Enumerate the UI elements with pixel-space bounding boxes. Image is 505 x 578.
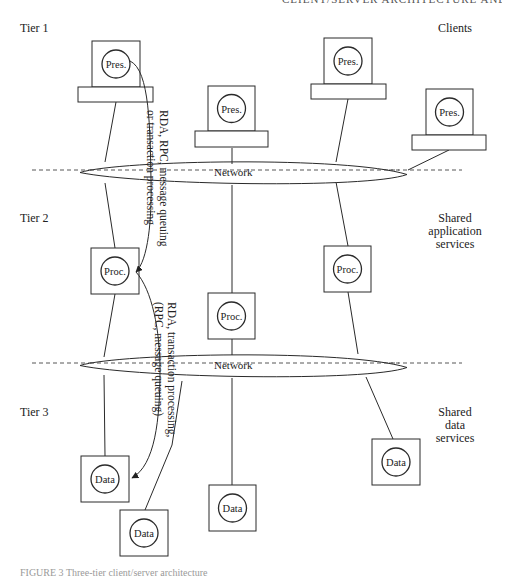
layer-role-label: Clients [415, 22, 495, 35]
app-server-node-3: Proc. [208, 293, 255, 339]
client-node-1: Pres. [78, 41, 153, 102]
flow-annotation: or transaction processing [144, 110, 157, 225]
workstation-base [78, 87, 153, 102]
connector-line [348, 292, 358, 354]
node-label: Data [134, 528, 154, 539]
connector-line [336, 182, 348, 246]
data-server-node-2: Data [120, 510, 168, 556]
workstation-base [195, 131, 268, 147]
node-label: Data [95, 474, 115, 485]
network-2: Network [32, 355, 462, 377]
data-server-node-1: Data [81, 456, 129, 502]
client-node-3: Pres. [311, 38, 386, 99]
flow-annotation: (RPC, message queuing) [152, 302, 165, 416]
workstation-base [311, 84, 386, 99]
tier-label: Tier 3 [20, 406, 49, 419]
workstation-base [412, 135, 486, 150]
connector-line [105, 183, 115, 248]
figure-caption: FIGURE 3 Three-tier client/server archit… [20, 567, 208, 578]
node-label: Pres. [439, 107, 460, 118]
flow-annotation: RDA, transaction processing, [165, 302, 178, 438]
flow-annotation: RDA, RPC, message queuing [157, 110, 170, 247]
network-label: Network [214, 359, 253, 371]
layer-role-line: services [415, 238, 495, 251]
connector-line [105, 102, 116, 162]
node-label: Pres. [338, 56, 359, 67]
network-label: Network [214, 166, 253, 178]
connector-line [408, 150, 449, 170]
node-label: Proc. [221, 311, 243, 322]
data-server-node-3: Data [209, 485, 256, 531]
tier-label: Tier 1 [20, 22, 49, 35]
app-server-node-2: Proc. [324, 246, 371, 292]
node-label: Pres. [106, 59, 127, 70]
connector-line [366, 377, 393, 439]
node-layer: Pres.Pres.Pres.Pres.Proc.Proc.Proc.DataD… [78, 38, 486, 556]
node-label: Proc. [104, 266, 126, 277]
client-node-4: Pres. [412, 89, 486, 150]
node-label: Data [386, 457, 406, 468]
data-server-node-4: Data [372, 439, 420, 485]
connector-line [145, 445, 172, 510]
connector-line [104, 375, 105, 456]
client-node-2: Pres. [195, 86, 268, 147]
node-label: Data [223, 503, 243, 514]
connector-line [336, 99, 348, 162]
layer-role-label: Sharedapplicationservices [415, 212, 495, 251]
node-label: Pres. [221, 104, 242, 115]
layer-role-line: services [415, 432, 495, 445]
node-label: Proc. [337, 264, 359, 275]
app-server-node-1: Proc. [91, 248, 139, 294]
network-1: Network [32, 162, 462, 184]
tier-label: Tier 2 [20, 212, 49, 225]
layer-role-label: Shareddataservices [415, 406, 495, 445]
layer-role-line: Clients [415, 22, 495, 35]
connector-line [104, 294, 115, 357]
